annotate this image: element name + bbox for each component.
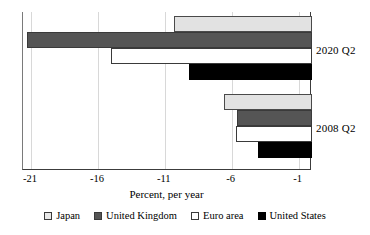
bar-united-states-2008-q2 bbox=[258, 142, 312, 158]
legend-item-euro-area: Euro area bbox=[191, 210, 244, 221]
group-label-2008-q2: 2008 Q2 bbox=[316, 122, 356, 134]
legend-label-euro-area: Euro area bbox=[203, 210, 244, 221]
bar-japan-2020-q2 bbox=[174, 16, 312, 32]
bar-united-states-2020-q2 bbox=[189, 64, 312, 80]
x-tick-label: -21 bbox=[23, 173, 37, 184]
chart-legend: Japan United Kingdom Euro area United St… bbox=[0, 210, 370, 221]
x-tick-label: -16 bbox=[90, 173, 104, 184]
bar-euro-area-2020-q2 bbox=[111, 48, 312, 64]
legend-label-united-states: United States bbox=[270, 210, 326, 221]
x-axis-title: Percent, per year bbox=[22, 188, 311, 200]
x-tick-label: -1 bbox=[293, 173, 302, 184]
legend-item-united-states: United States bbox=[258, 210, 326, 221]
legend-swatch-euro-area-icon bbox=[191, 212, 199, 220]
bar-euro-area-2008-q2 bbox=[236, 126, 312, 142]
bar-united-kingdom-2008-q2 bbox=[237, 110, 312, 126]
legend-label-japan: Japan bbox=[56, 210, 80, 221]
x-tick-label: -6 bbox=[226, 173, 235, 184]
bar-japan-2008-q2 bbox=[224, 94, 312, 110]
bar-united-kingdom-2020-q2 bbox=[27, 32, 312, 48]
legend-swatch-japan-icon bbox=[44, 212, 52, 220]
legend-item-japan: Japan bbox=[44, 210, 80, 221]
legend-label-united-kingdom: United Kingdom bbox=[106, 210, 177, 221]
plot-area bbox=[22, 12, 311, 170]
legend-swatch-united-states-icon bbox=[258, 212, 266, 220]
x-tick-label: -11 bbox=[157, 173, 171, 184]
legend-item-united-kingdom: United Kingdom bbox=[94, 210, 177, 221]
legend-swatch-united-kingdom-icon bbox=[94, 212, 102, 220]
group-label-2020-q2: 2020 Q2 bbox=[316, 44, 356, 56]
gdp-growth-bar-chart: 2020 Q2 2008 Q2 Percent, per year Japan … bbox=[0, 0, 370, 235]
